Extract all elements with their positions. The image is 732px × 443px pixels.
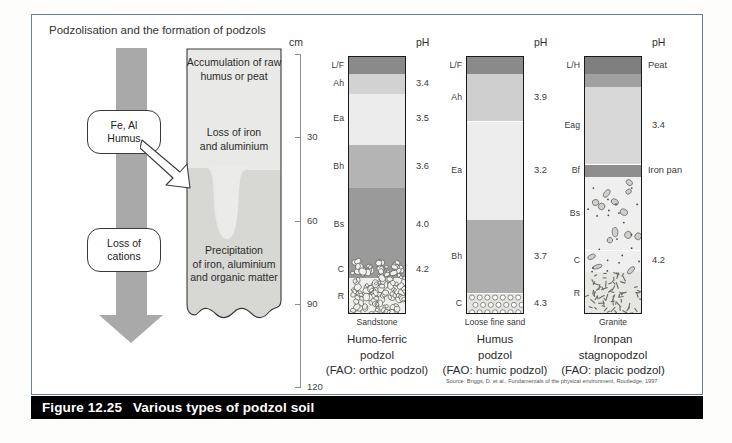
substrate-texture-2 — [585, 57, 642, 314]
source-text: Source: Briggs, D. et al., Fundamentals … — [446, 378, 657, 384]
profile-caption-line2-2: stagnopodzol — [533, 348, 693, 364]
horizon-label-R-0: R — [310, 291, 344, 301]
zone2-line1: Loss of iron — [186, 126, 282, 140]
soil-profile-column-2 — [584, 56, 642, 314]
callout-loss-of-cations: Loss of cations — [87, 228, 161, 272]
substrate-label-0: Sandstone — [332, 317, 422, 327]
figure-caption-bar: Figure 12.25 Various types of podzol soi… — [31, 396, 703, 419]
ph-value-Ea-1: 3.2 — [534, 165, 547, 175]
substrate-label-1: Loose fine sand — [450, 317, 540, 327]
ph-value-Ah-0: 3.4 — [416, 78, 429, 88]
horizon-label-Ea-0: Ea — [310, 113, 344, 123]
ph-value-Bh-1: 3.7 — [534, 251, 547, 261]
callout-fe-line1: Fe, Al — [111, 119, 138, 132]
panel-title: Podzolisation and the formation of podzo… — [49, 24, 266, 36]
horizon-label-Bs-0: Bs — [310, 219, 344, 229]
ph-value-C-1: 4.3 — [534, 298, 547, 308]
figure-number: Figure 12.25 — [42, 400, 122, 415]
soil-profile-column-0 — [348, 56, 406, 314]
horizon-label-C-1: C — [428, 298, 462, 308]
depth-tick-90 — [295, 304, 301, 305]
ph-value-Bs-0: 4.0 — [416, 219, 429, 229]
depth-scale-unit: cm — [289, 36, 303, 48]
profile-caption-2: Ironpanstagnopodzol(FAO: placic podzol) — [533, 332, 693, 379]
podzol-schematic: Accumulation of raw humus or peat Loss o… — [186, 48, 282, 340]
ph-value-Eag-2: 3.4 — [652, 120, 665, 130]
podzol-schematic-svg — [186, 48, 282, 340]
ph-value-Bh-0: 3.6 — [416, 161, 429, 171]
substrate-texture-1 — [467, 57, 524, 314]
figure-page: Podzolisation and the formation of podzo… — [0, 0, 732, 443]
horizon-label-L/F-0: L/F — [310, 60, 344, 70]
figure-title: Various types of podzol soil — [133, 400, 314, 415]
substrate-label-2: Granite — [568, 317, 658, 327]
transfer-arrow-icon — [140, 138, 200, 194]
ph-value-C-2: 4.2 — [652, 255, 665, 265]
horizon-label-Bs-2: Bs — [546, 208, 580, 218]
profile-caption-line1-2: Ironpan — [533, 332, 693, 348]
annotation-peat-2: Peat — [648, 60, 667, 70]
horizon-label-L/H-2: L/H — [546, 60, 580, 70]
callout-cations-line2: cations — [107, 250, 140, 263]
soil-profile-column-1 — [466, 56, 524, 314]
callout-fe-line2: Humus — [107, 132, 140, 145]
schematic-zone-2: Loss of iron and aluminium — [186, 126, 282, 153]
zone3-line2: of iron, aluminium — [186, 258, 282, 272]
ph-header-0: pH — [416, 36, 429, 48]
depth-tick-60 — [295, 221, 301, 222]
zone3-line1: Precipitation — [186, 244, 282, 258]
horizon-label-Bh-1: Bh — [428, 251, 462, 261]
substrate-texture-0 — [349, 57, 406, 314]
horizon-label-Bh-0: Bh — [310, 161, 344, 171]
depth-tick-30 — [295, 137, 301, 138]
horizon-label-Ea-1: Ea — [428, 165, 462, 175]
zone2-line2: and aluminium — [186, 140, 282, 154]
zone1-line1: Accumulation of raw — [186, 56, 282, 70]
ph-value-C-0: 4.2 — [416, 264, 429, 274]
depth-tick-0 — [295, 54, 301, 55]
source-note: Source: Briggs, D. et al., Fundamentals … — [446, 378, 657, 384]
depth-tick-120 — [295, 387, 301, 388]
ph-header-2: pH — [652, 36, 665, 48]
horizon-label-Ah-0: Ah — [310, 78, 344, 88]
zone1-line2: humus or peat — [186, 70, 282, 84]
schematic-zone-3: Precipitation of iron, aluminium and org… — [186, 244, 282, 285]
zone3-line3: and organic matter — [186, 271, 282, 285]
callout-cations-line1: Loss of — [107, 237, 141, 250]
ph-header-1: pH — [534, 36, 547, 48]
annotation-iron-pan-2: Iron pan — [648, 165, 682, 175]
horizon-label-Bf-2: Bf — [546, 165, 580, 175]
depth-tick-label-30: 30 — [307, 131, 318, 142]
ph-value-Ea-0: 3.5 — [416, 113, 429, 123]
depth-tick-label-120: 120 — [307, 381, 323, 392]
horizon-label-R-2: R — [546, 288, 580, 298]
horizon-label-Ah-1: Ah — [428, 92, 462, 102]
horizon-label-C-0: C — [310, 264, 344, 274]
horizon-label-C-2: C — [546, 255, 580, 265]
schematic-zone-1: Accumulation of raw humus or peat — [186, 56, 282, 83]
horizon-label-Eag-2: Eag — [546, 120, 580, 130]
leaching-arrow-head — [99, 315, 163, 343]
profile-caption-line3-2: (FAO: placic podzol) — [533, 363, 693, 379]
horizon-label-L/F-1: L/F — [428, 60, 462, 70]
ph-value-Ah-1: 3.9 — [534, 92, 547, 102]
